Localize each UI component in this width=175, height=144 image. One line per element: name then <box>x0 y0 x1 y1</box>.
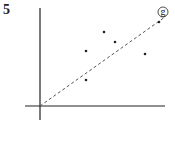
data-point-2 <box>103 31 106 34</box>
data-point-4 <box>85 79 88 82</box>
data-point-3 <box>114 41 117 44</box>
data-point-1 <box>85 50 88 53</box>
data-point-6 <box>158 21 161 24</box>
data-point-5 <box>144 53 147 56</box>
dashed-line-g <box>40 17 165 106</box>
scatter-plot: g <box>0 0 175 144</box>
line-label-g: g <box>161 6 166 17</box>
